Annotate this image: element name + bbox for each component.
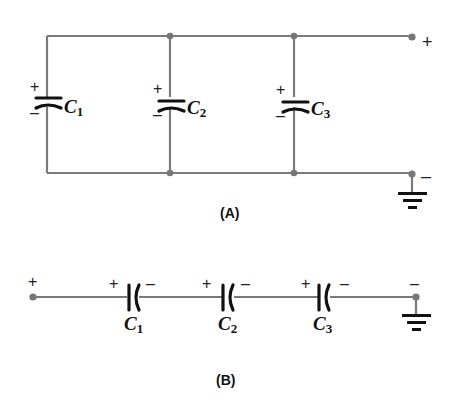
cap-name: C: [218, 313, 231, 334]
figure-label-a: (A): [220, 205, 239, 221]
c1-minus-sign-a: –: [30, 105, 39, 121]
c3-minus-sign-b: –: [340, 276, 349, 292]
cap-subscript: 1: [137, 321, 144, 336]
c1-minus-sign-b: –: [146, 276, 155, 292]
c1-plus-sign-b: +: [109, 276, 118, 292]
cap-name: C: [313, 313, 326, 334]
cap-name: C: [187, 97, 200, 118]
c3-plus-sign-b: +: [301, 276, 310, 292]
c2-minus-sign-a: –: [153, 107, 162, 123]
ground-icon-a: [398, 192, 427, 209]
capacitor-label-c3-a: C3: [311, 98, 330, 122]
parallel-circuit: [47, 36, 412, 192]
cap-subscript: 1: [77, 104, 84, 119]
capacitor-label-c1-b: C1: [124, 313, 143, 337]
c2-plus-sign-b: +: [202, 276, 211, 292]
terminal-plus-a: +: [422, 33, 433, 51]
c3-minus-sign-a: –: [276, 108, 285, 124]
terminal-minus-b: –: [410, 276, 419, 292]
capacitor-label-c1-a: C1: [64, 96, 83, 120]
cap-subscript: 3: [324, 106, 331, 121]
cap-subscript: 2: [231, 321, 238, 336]
capacitor-label-c2-b: C2: [218, 313, 237, 337]
terminal-minus-a: –: [421, 167, 431, 185]
c2-minus-sign-b: –: [241, 276, 250, 292]
cap-name: C: [311, 98, 324, 119]
c3-plus-sign-a: +: [276, 82, 285, 98]
capacitor-label-c2-a: C2: [187, 97, 206, 121]
cap-name: C: [64, 96, 77, 117]
cap-subscript: 3: [326, 321, 333, 336]
cap-name: C: [124, 313, 137, 334]
c2-plus-sign-a: +: [153, 81, 162, 97]
c1-plus-sign-a: +: [30, 79, 39, 95]
terminal-plus-b: +: [28, 274, 37, 290]
cap-subscript: 2: [200, 105, 207, 120]
capacitor-label-c3-b: C3: [313, 313, 332, 337]
figure-label-b: (B): [216, 372, 235, 388]
ground-icon-b: [402, 314, 431, 331]
